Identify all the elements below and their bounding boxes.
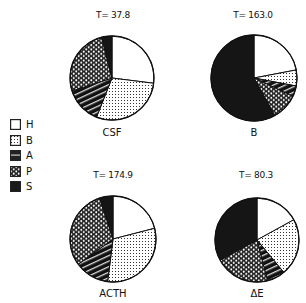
legend-swatch-h (10, 119, 21, 130)
pie-de (215, 198, 299, 282)
legend-item-b: B (10, 133, 34, 149)
legend-label-h: H (26, 119, 34, 130)
legend-swatch-b (10, 135, 21, 146)
panel-title-b: T= 163.0 (223, 10, 283, 20)
panel-label-de: ΔE (227, 288, 287, 299)
legend: H B A P S (10, 117, 34, 195)
legend-swatch-a (10, 150, 21, 161)
pie-chart-figure: T= 37.8 T= 163.0 T= 174.9 T= 80.3 CSF B … (0, 0, 306, 303)
pie-charts-canvas (0, 0, 306, 303)
panel-label-acth: ACTH (83, 288, 143, 299)
panel-title-csf: T= 37.8 (83, 10, 143, 20)
pie-csf (70, 36, 154, 120)
legend-label-a: A (26, 150, 33, 161)
pie-b (211, 35, 297, 121)
legend-label-b: B (26, 135, 33, 146)
legend-label-p: P (26, 166, 32, 177)
panel-label-b: B (224, 127, 284, 138)
legend-item-a: A (10, 148, 34, 164)
legend-swatch-s (10, 181, 21, 192)
pie-acth (70, 196, 156, 282)
pie-slice-h (112, 36, 154, 83)
legend-swatch-p (10, 166, 21, 177)
panel-title-acth: T= 174.9 (83, 170, 143, 180)
legend-item-p: P (10, 164, 34, 180)
legend-label-s: S (26, 181, 32, 192)
panel-label-csf: CSF (82, 127, 142, 138)
panel-title-de: T= 80.3 (226, 170, 286, 180)
legend-item-h: H (10, 117, 34, 133)
legend-item-s: S (10, 179, 34, 195)
